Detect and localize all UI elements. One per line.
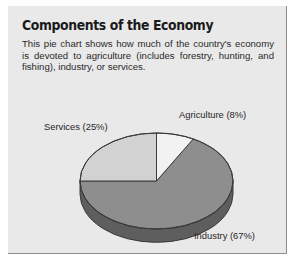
pie-label-services: Services (25%) bbox=[44, 121, 108, 132]
pie-slice-services[interactable] bbox=[80, 133, 157, 181]
pie-label-agriculture: Agriculture (8%) bbox=[179, 109, 246, 120]
pie-label-industry: Industry (67%) bbox=[194, 230, 255, 241]
chart-card-panel: Components of the Economy This pie chart… bbox=[8, 6, 287, 254]
figure-container: Components of the Economy This pie chart… bbox=[0, 0, 295, 274]
pie-chart: Agriculture (8%) Services (25%) Industry… bbox=[16, 94, 295, 254]
page-title: Components of the Economy bbox=[22, 18, 252, 33]
chart-description: This pie chart shows how much of the cou… bbox=[22, 38, 274, 73]
